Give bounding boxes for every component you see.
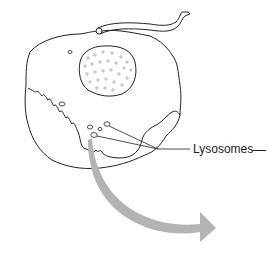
vesicle xyxy=(68,51,72,54)
cell-diagram: Lysosomes xyxy=(0,0,267,263)
lysosomes xyxy=(87,122,110,138)
vesicle xyxy=(59,102,65,106)
lysosome-leader-lines xyxy=(97,126,190,149)
flagellum xyxy=(98,12,188,28)
nucleus xyxy=(79,46,136,96)
lysosomes-label: Lysosomes xyxy=(193,142,253,156)
label-trailing-line xyxy=(252,150,266,151)
